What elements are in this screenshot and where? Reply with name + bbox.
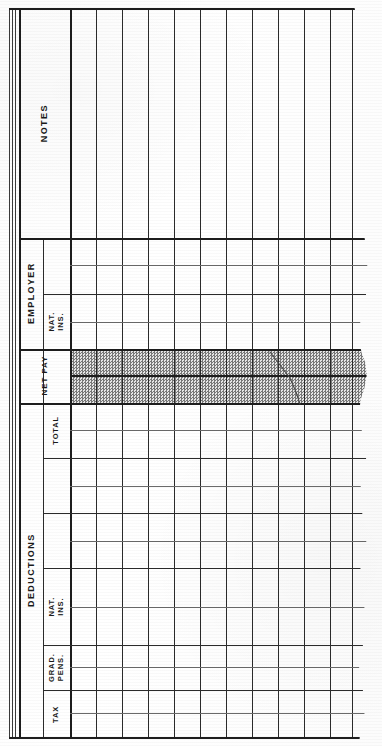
row-rule <box>70 607 382 608</box>
section-label-notes-text: NOTES <box>39 104 49 142</box>
column-rule <box>200 8 201 738</box>
row-rule <box>70 513 382 514</box>
subcolumn-label-deductions-total-text: TOTAL <box>52 416 61 445</box>
row-rule <box>70 486 382 487</box>
column-rule <box>148 8 149 738</box>
column-rule <box>174 8 175 738</box>
stub-grid-divider <box>70 8 72 738</box>
section-label-employer-text: EMPLOYER <box>26 263 36 325</box>
subcolumn-label-deductions-blank-1 <box>43 458 70 513</box>
subcolumn-label-employer-blank <box>43 238 70 294</box>
section-label-net-pay: NET PAY <box>19 349 70 403</box>
section-label-deductions: DEDUCTIONS <box>19 403 43 738</box>
row-rule <box>70 713 382 714</box>
subcolumn-label-deductions-blank-2 <box>43 513 70 568</box>
section-label-employer: EMPLOYER <box>19 238 43 349</box>
row-rule <box>70 294 382 295</box>
column-rule <box>278 8 279 738</box>
subcolumn-label-deductions-tax: TAX <box>43 690 70 738</box>
section-divider-notes-employer <box>19 238 382 240</box>
row-rule-netpay <box>70 375 382 377</box>
column-rule <box>304 8 305 738</box>
section-label-notes: NOTES <box>19 8 70 238</box>
subcolumn-label-deductions-total: TOTAL <box>43 403 70 458</box>
row-rule <box>70 568 382 569</box>
subcolumn-label-deductions-nat-ins: NAT. INS. <box>43 568 70 645</box>
column-rule <box>226 8 227 738</box>
column-rule <box>122 8 123 738</box>
subcolumn-label-deductions-grad-pens: GRAD. PENS. <box>43 645 70 690</box>
row-rule <box>70 541 382 542</box>
column-rule <box>252 8 253 738</box>
ledger-sheet: NOTES EMPLOYER NAT. INS. NET PAY DEDUCTI… <box>0 0 382 746</box>
row-rule <box>70 322 382 323</box>
section-label-deductions-text: DEDUCTIONS <box>26 534 36 608</box>
row-rule <box>70 430 382 431</box>
binding-rule <box>12 8 13 738</box>
subcolumn-label-deductions-tax-text: TAX <box>52 705 61 722</box>
column-rule <box>96 8 97 738</box>
subcolumn-label-employer-nat-ins-text: NAT. INS. <box>48 308 65 335</box>
subcolumn-label-deductions-grad-pens-text: GRAD. PENS. <box>48 653 65 682</box>
section-divider-netpay-deductions <box>19 403 382 405</box>
row-rule <box>70 690 382 691</box>
binding-rule <box>15 8 16 738</box>
row-rule <box>70 667 382 668</box>
binding-rule <box>9 8 10 738</box>
subcolumn-label-employer-nat-ins: NAT. INS. <box>43 294 70 349</box>
row-rule <box>70 458 382 459</box>
row-rule <box>70 265 382 266</box>
column-rule <box>330 8 331 738</box>
form-body: NOTES EMPLOYER NAT. INS. NET PAY DEDUCTI… <box>0 0 382 746</box>
column-rule <box>352 8 353 738</box>
section-label-net-pay-text: NET PAY <box>40 356 49 396</box>
subcolumn-label-deductions-nat-ins-text: NAT. INS. <box>48 593 65 620</box>
row-rule <box>70 645 382 646</box>
section-divider-employer-netpay <box>19 349 382 351</box>
